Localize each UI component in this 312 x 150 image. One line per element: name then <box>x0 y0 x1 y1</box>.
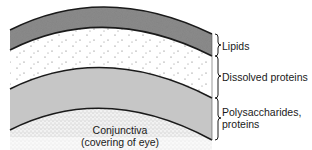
dissolved-proteins-label: Dissolved proteins <box>222 71 308 83</box>
lipids-brace <box>215 34 221 56</box>
dissolved-proteins-brace <box>215 56 221 98</box>
polysaccharides-label-line2: proteins <box>222 118 259 130</box>
conjunctiva-label-line1: Conjunctiva <box>85 124 155 136</box>
polysaccharides-label-line1: Polysaccharides, <box>222 106 301 118</box>
polysaccharides-brace <box>215 98 221 140</box>
conjunctiva-label-line2: (covering of eye) <box>70 136 170 148</box>
lipids-label: Lipids <box>222 40 249 52</box>
